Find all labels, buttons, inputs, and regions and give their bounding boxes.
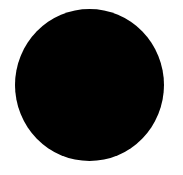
black-circle	[15, 9, 164, 161]
